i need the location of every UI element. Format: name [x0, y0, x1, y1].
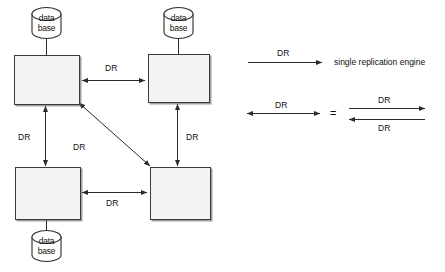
diagram-canvas: data base data base data base DR DR DR D…: [0, 0, 445, 272]
edge-label-top: DR: [105, 63, 117, 73]
legend-arrow-label-backward: DR: [378, 123, 390, 133]
edge-label-bottom: DR: [106, 198, 118, 208]
legend-arrow-label-unidirectional: DR: [277, 48, 289, 58]
legend-equals-sign: =: [330, 107, 336, 119]
database-symbol-layer: [0, 0, 445, 272]
database-label-line2: base: [164, 23, 193, 33]
legend-arrow-label-forward: DR: [378, 95, 390, 105]
node-bottom-right[interactable]: [150, 167, 211, 220]
database-label-line1: data: [32, 13, 61, 23]
edge-label-right: DR: [186, 132, 198, 142]
node-top-left[interactable]: [14, 55, 80, 105]
database-label-line2: base: [32, 246, 61, 256]
database-label-line2: base: [32, 23, 61, 33]
database-label-line1: data: [32, 236, 61, 246]
node-top-right[interactable]: [148, 54, 210, 103]
legend-description-single-replication-engine: single replication engine: [334, 57, 425, 67]
node-bottom-left[interactable]: [15, 167, 81, 220]
edge-label-left: DR: [18, 132, 30, 142]
legend-arrow-label-bidirectional: DR: [275, 100, 287, 110]
database-label-line1: data: [164, 13, 193, 23]
edge-label-diagonal: DR: [73, 142, 85, 152]
